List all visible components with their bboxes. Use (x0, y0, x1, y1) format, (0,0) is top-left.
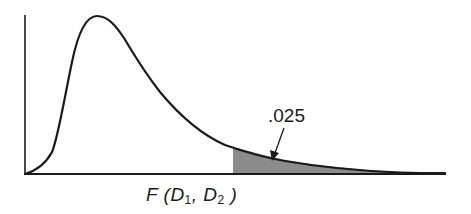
x-axis-label: F (D1, D2 ) (146, 184, 237, 207)
x-label-close-paren: ) (231, 184, 238, 205)
x-label-d2-subscript: 2 (218, 193, 225, 207)
f-distribution-chart (0, 0, 471, 214)
x-label-function: F (146, 184, 158, 205)
shaded-tail-region (233, 147, 445, 174)
x-label-separator: , (192, 184, 198, 205)
annotation-arrow-line (275, 128, 284, 153)
x-label-d1: D (170, 184, 184, 205)
x-label-d2: D (203, 184, 217, 205)
tail-area-annotation: .025 (268, 105, 305, 127)
x-label-d1-subscript: 1 (185, 193, 192, 207)
